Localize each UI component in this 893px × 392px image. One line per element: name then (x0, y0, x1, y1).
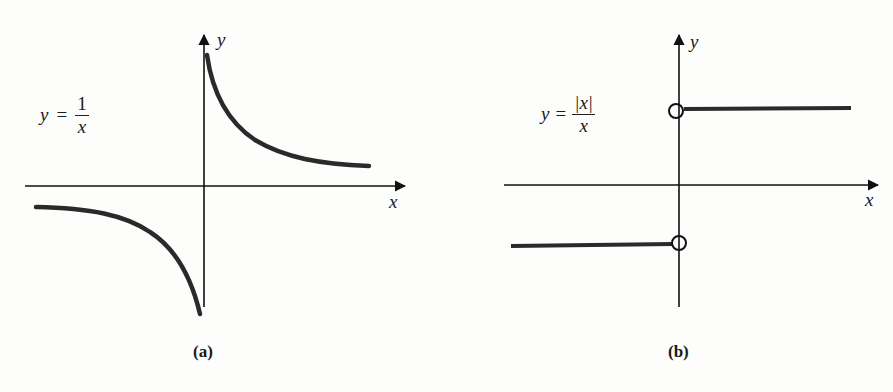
panel-b-line-negative (511, 244, 673, 246)
figure-canvas (0, 0, 893, 392)
equation-fraction: 1 x (75, 94, 89, 137)
fraction-denominator: x (579, 115, 587, 136)
panel-b-equation: y = |x| x (541, 93, 595, 136)
fraction-numerator: 1 (75, 94, 89, 116)
panel-b-x-label: x (865, 190, 873, 209)
equation-lhs: y (40, 104, 48, 126)
panel-b-line-positive (684, 108, 851, 109)
equation-lhs: y (541, 103, 549, 125)
fraction-numerator: |x| (572, 93, 595, 115)
equation-fraction: |x| x (572, 93, 595, 136)
panel-a-curve-positive (207, 55, 369, 166)
panel-a-curve-negative (36, 207, 200, 314)
equation-equals: = (555, 103, 566, 125)
panel-b-open-circle-upper (669, 104, 683, 118)
panel-a-equation: y = 1 x (40, 94, 89, 137)
panel-b-y-label: y (690, 32, 698, 51)
panel-a-axes (25, 35, 405, 307)
equation-equals: = (56, 104, 67, 126)
panel-b-axes (504, 35, 878, 307)
panel-a-caption: (a) (193, 342, 213, 362)
panel-b-caption: (b) (668, 342, 689, 362)
panel-a-x-label: x (389, 192, 397, 211)
fraction-denominator: x (78, 116, 86, 137)
panel-a-y-label: y (217, 30, 225, 49)
